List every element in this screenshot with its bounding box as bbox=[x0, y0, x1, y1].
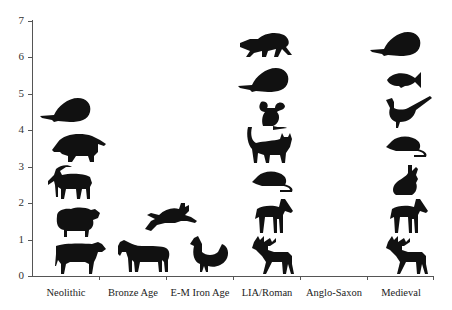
cattle-icon bbox=[52, 240, 108, 276]
snail-icon bbox=[238, 66, 294, 96]
deer-icon bbox=[250, 234, 296, 276]
y-axis bbox=[32, 20, 33, 277]
chicken-icon bbox=[188, 234, 230, 274]
pheasant-icon bbox=[384, 96, 434, 130]
rat-icon bbox=[384, 133, 430, 159]
snail-icon bbox=[40, 96, 96, 126]
y-tick bbox=[28, 94, 33, 95]
y-tick-label: 4 bbox=[12, 123, 24, 135]
y-tick bbox=[28, 203, 33, 204]
mouse-icon bbox=[255, 100, 289, 132]
donkey-icon bbox=[251, 197, 295, 235]
y-tick bbox=[28, 167, 33, 168]
boar-icon bbox=[50, 130, 108, 164]
y-tick bbox=[28, 21, 33, 22]
sheep-icon bbox=[53, 206, 101, 238]
x-tick bbox=[233, 276, 234, 280]
snail-icon bbox=[370, 30, 426, 60]
y-tick-label: 7 bbox=[12, 14, 24, 26]
y-tick-label: 2 bbox=[12, 196, 24, 208]
y-tick bbox=[28, 130, 33, 131]
pictogram-chart: 0 1 2 3 4 5 6 7 Neolithic Bronze Age E-M… bbox=[0, 0, 452, 310]
y-tick-label: 6 bbox=[12, 50, 24, 62]
goat-icon bbox=[46, 163, 96, 201]
y-tick bbox=[28, 276, 33, 277]
donkey-icon bbox=[386, 197, 430, 235]
y-tick-label: 1 bbox=[12, 233, 24, 245]
y-tick-label: 0 bbox=[12, 269, 24, 281]
horse-icon bbox=[116, 238, 172, 274]
x-tick bbox=[367, 276, 368, 280]
x-tick bbox=[433, 276, 434, 280]
deer-icon bbox=[384, 234, 430, 276]
fish-icon bbox=[385, 70, 423, 90]
hare-icon bbox=[145, 201, 199, 233]
x-label-medieval: Medieval bbox=[361, 287, 441, 298]
y-tick-label: 5 bbox=[12, 87, 24, 99]
beetle-icon bbox=[238, 31, 294, 59]
y-tick-label: 3 bbox=[12, 160, 24, 172]
x-tick bbox=[99, 276, 100, 280]
x-tick bbox=[300, 276, 301, 280]
y-tick bbox=[28, 240, 33, 241]
x-tick bbox=[166, 276, 167, 280]
rabbit-icon bbox=[390, 165, 422, 197]
y-tick bbox=[28, 57, 33, 58]
rat-icon bbox=[250, 168, 296, 194]
